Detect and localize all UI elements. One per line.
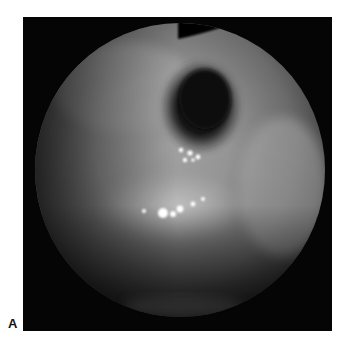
endoscopic-image-panel (23, 17, 332, 331)
field-of-view (23, 17, 332, 331)
endoscopic-view (23, 17, 332, 331)
panel-label: A (8, 316, 17, 331)
